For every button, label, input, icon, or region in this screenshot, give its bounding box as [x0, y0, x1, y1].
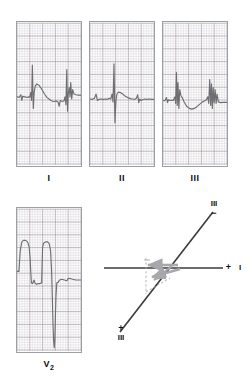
ecg-waveform-trace: [17, 22, 81, 166]
ecg-panel-lead-I: [16, 21, 82, 167]
lead-label-subscript: 2: [50, 364, 54, 371]
ecg-panel-lead-V2: [16, 207, 82, 353]
lead-III-positive-label: III: [110, 334, 132, 342]
ecg-waveform-trace: [90, 22, 154, 166]
ecg-waveform-trace: [17, 208, 81, 352]
lead-label-I: I: [16, 173, 82, 183]
lead-label-II: II: [89, 173, 155, 183]
lead-label-text: III: [190, 173, 199, 183]
axis-vector-diagram: III − + III + I: [104, 200, 247, 358]
lead-label-III: III: [162, 173, 228, 183]
lead-label-V2: V2: [16, 359, 82, 371]
ecg-panel-lead-III: [162, 21, 228, 167]
ecg-panel-lead-II: [89, 21, 155, 167]
ecg-waveform-trace: [163, 22, 227, 166]
figure-canvas: I II III V2 III − + III + I: [0, 0, 247, 383]
lead-III-negative-label: III: [203, 200, 225, 208]
lead-I-positive-label: I: [235, 264, 245, 272]
lead-I-positive-sign: +: [223, 263, 234, 272]
lead-label-text: I: [47, 173, 50, 183]
lead-label-text: II: [119, 173, 125, 183]
lead-III-positive-sign: +: [110, 324, 132, 333]
lead-III-negative-sign: −: [203, 209, 225, 218]
